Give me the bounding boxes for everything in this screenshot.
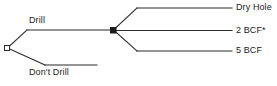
- decision-tree-diagram: Drill Don't Drill Dry Hole 2 BCF* 5 BCF: [0, 0, 277, 86]
- dry-hole-branch-path: [114, 8, 233, 30]
- five-bcf-branch-path: [114, 30, 233, 51]
- five-bcf-branch-diagonal: [114, 30, 138, 51]
- outcome-label-5-bcf: 5 BCF: [236, 45, 262, 55]
- dry-hole-branch-diagonal: [114, 8, 138, 30]
- drill-branch-label: Drill: [29, 15, 45, 25]
- dont-drill-branch-path: [8, 48, 98, 65]
- dont-drill-branch-diagonal: [8, 48, 46, 65]
- drill-branch-diagonal: [8, 30, 28, 48]
- decision-node-square: [5, 46, 10, 51]
- outcome-label-2-bcf: 2 BCF*: [236, 25, 266, 35]
- chance-node-square: [111, 28, 117, 34]
- drill-branch-path: [8, 30, 113, 48]
- outcome-label-dry-hole: Dry Hole: [236, 2, 272, 12]
- dont-drill-branch-label: Don't Drill: [29, 67, 69, 77]
